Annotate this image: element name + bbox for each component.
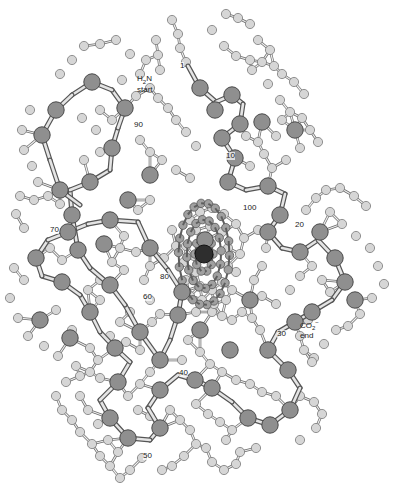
- residue-label-10: 10: [226, 152, 235, 160]
- c-terminus-formula-main: CO: [300, 321, 312, 330]
- residue-label-30: 30: [277, 330, 286, 338]
- residue-label-60: 60: [143, 293, 152, 301]
- n-terminus-label: H2N start: [137, 75, 153, 94]
- c-terminus-text: end: [300, 332, 319, 340]
- protein-ball-and-stick-model: [0, 0, 398, 498]
- residue-label-50: 50: [143, 452, 152, 460]
- n-terminus-text: start: [137, 86, 153, 94]
- residue-label-20: 20: [295, 221, 304, 229]
- residue-label-70: 70: [50, 226, 59, 234]
- residue-label-90: 90: [134, 121, 143, 129]
- residue-label-100: 100: [243, 204, 256, 212]
- c-terminus-formula-sup: −: [315, 319, 319, 325]
- molecular-structure-diagram: H2N start CO2− end 110203040506070809010…: [0, 0, 398, 498]
- c-terminus-label: CO2− end: [300, 318, 319, 340]
- residue-label-1: 1: [180, 62, 184, 70]
- n-terminus-formula-tail: N: [146, 74, 152, 83]
- residue-label-40: 40: [179, 369, 188, 377]
- iron-atom: [195, 245, 213, 263]
- residue-label-80: 80: [160, 273, 169, 281]
